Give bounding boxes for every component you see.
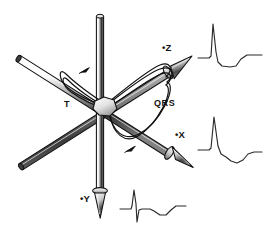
ecg-trace-lead-z [198, 24, 262, 67]
ecg-trace-lead-x [198, 117, 262, 163]
loop-qrs-direction-marker [125, 146, 136, 153]
axis-y-arrowhead [93, 188, 108, 219]
axis-label-y: •Y [80, 193, 91, 204]
ecg-trace-lead-y [120, 190, 186, 222]
loop-label-t: T [64, 99, 70, 109]
loop-label-qrs: QRS [154, 98, 175, 108]
axis-z-shaft [19, 69, 172, 170]
ecg-trace-lead-y-path [120, 190, 186, 222]
vcg-figure: •Z •X •Y QRS T [0, 0, 266, 235]
axes-origin-hub [93, 97, 117, 116]
vcg-illustration: •Z •X •Y QRS T [0, 0, 266, 235]
ecg-trace-lead-z-path [198, 24, 262, 67]
ecg-trace-lead-x-path [198, 117, 262, 163]
axis-y-top-cap [96, 14, 103, 18]
axis-label-z: •Z [162, 42, 172, 53]
axis-label-x: •X [175, 129, 186, 140]
loop-t-direction-marker [79, 68, 90, 74]
